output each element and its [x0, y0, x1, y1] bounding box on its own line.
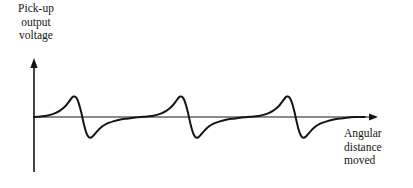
x-axis-arrowhead [369, 114, 378, 121]
y-axis-arrowhead [30, 58, 37, 68]
figure-canvas: Pick-up output voltage Angular distance … [0, 0, 413, 188]
plot-area [0, 0, 413, 188]
